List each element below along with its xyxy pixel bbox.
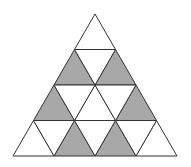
triangle-grid-diagram	[0, 0, 191, 167]
triangle-up-r1-1	[75, 14, 116, 50]
